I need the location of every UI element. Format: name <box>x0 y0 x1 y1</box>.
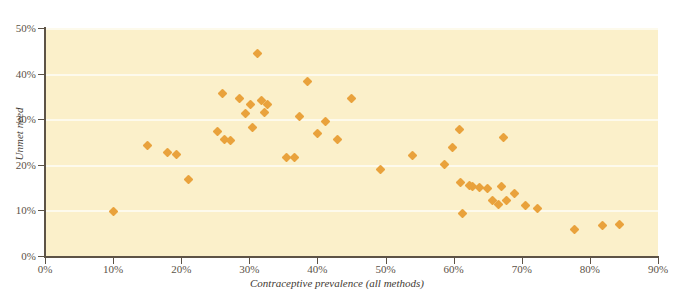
data-point <box>235 93 245 103</box>
x-axis-tick <box>181 258 182 264</box>
data-point <box>217 89 227 99</box>
x-axis-tick <box>45 258 46 264</box>
data-point <box>260 107 270 117</box>
x-axis-tick <box>317 258 318 264</box>
data-point <box>212 127 222 137</box>
scatter-chart: 0%10%20%30%40%50% 0%10%20%30%40%50%60%70… <box>0 0 674 295</box>
x-axis-tick <box>386 258 387 264</box>
x-axis-tick <box>658 258 659 264</box>
x-axis-tick-label: 80% <box>580 263 600 275</box>
data-point <box>597 220 607 230</box>
y-axis-tick-label: 10% <box>16 204 36 216</box>
x-axis-tick-label: 90% <box>648 263 668 275</box>
y-axis-tick <box>38 165 44 166</box>
y-axis-title: Unmet need <box>13 89 25 179</box>
y-axis-tick <box>38 28 44 29</box>
data-point <box>248 122 258 132</box>
data-point <box>570 225 580 235</box>
x-axis-tick-label: 50% <box>375 263 395 275</box>
x-axis-tick-label: 40% <box>307 263 327 275</box>
data-point <box>521 200 531 210</box>
data-point <box>289 152 299 162</box>
gridline <box>45 28 658 30</box>
x-axis-tick-label: 30% <box>239 263 259 275</box>
x-axis-tick-label: 10% <box>103 263 123 275</box>
data-point <box>241 108 251 118</box>
data-point <box>321 116 331 126</box>
x-axis-tick-label: 20% <box>171 263 191 275</box>
data-point <box>483 184 493 194</box>
data-point <box>496 181 506 191</box>
data-point <box>447 143 457 153</box>
data-point <box>183 175 193 185</box>
gridline <box>45 165 658 167</box>
x-axis-tick <box>249 258 250 264</box>
gridline <box>45 210 658 212</box>
y-axis-tick <box>38 119 44 120</box>
data-point <box>439 160 449 170</box>
y-axis-tick-label: 0% <box>21 250 36 262</box>
y-axis-tick-label: 40% <box>16 68 36 80</box>
data-point <box>108 206 118 216</box>
data-point <box>246 100 256 110</box>
data-point <box>163 147 173 157</box>
data-point <box>172 150 182 160</box>
y-axis-tick-label: 50% <box>16 22 36 34</box>
x-axis-tick-label: 0% <box>38 263 53 275</box>
data-point <box>142 140 152 150</box>
data-point <box>408 150 418 160</box>
x-axis-tick <box>113 258 114 264</box>
data-point <box>253 48 263 58</box>
plot-area <box>45 28 658 256</box>
x-axis-tick <box>590 258 591 264</box>
y-axis-line <box>44 27 46 257</box>
x-axis-tick <box>454 258 455 264</box>
data-point <box>454 124 464 134</box>
gridline <box>45 74 658 76</box>
data-point <box>333 135 343 145</box>
data-point <box>498 132 508 142</box>
y-axis-tick <box>38 74 44 75</box>
data-point <box>510 189 520 199</box>
x-axis-tick <box>522 258 523 264</box>
data-point <box>302 76 312 86</box>
x-axis-title: Contraceptive prevalence (all methods) <box>0 277 674 289</box>
x-axis-tick-label: 60% <box>444 263 464 275</box>
gridline <box>45 119 658 121</box>
data-point <box>312 128 322 138</box>
y-axis-tick <box>38 210 44 211</box>
x-axis-line <box>44 256 659 258</box>
x-axis-tick-label: 70% <box>512 263 532 275</box>
data-point <box>614 220 624 230</box>
y-axis-tick <box>38 256 44 257</box>
data-point <box>347 94 357 104</box>
